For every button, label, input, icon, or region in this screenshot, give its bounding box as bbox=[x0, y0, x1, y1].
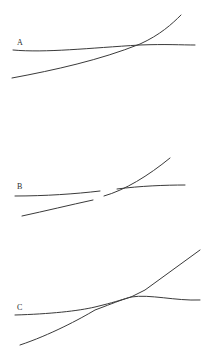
figure-root: A B C bbox=[0, 0, 220, 357]
panel-a-rising-curve bbox=[12, 15, 181, 78]
panel-a-label: A bbox=[17, 38, 23, 47]
panel-c: C bbox=[15, 250, 200, 345]
panel-b-near-horizontal-segment-left bbox=[15, 191, 100, 196]
panel-b: B bbox=[15, 158, 185, 216]
curve-figure-canvas: A B C bbox=[0, 0, 220, 357]
panel-b-rising-segment-right bbox=[104, 158, 170, 196]
panel-c-rising-curve bbox=[20, 250, 200, 345]
panel-b-rising-segment-left bbox=[22, 200, 93, 216]
panel-b-label: B bbox=[17, 182, 23, 191]
panel-a: A bbox=[12, 15, 195, 78]
panel-c-label: C bbox=[17, 303, 23, 312]
panel-a-near-horizontal-curve bbox=[13, 45, 195, 51]
